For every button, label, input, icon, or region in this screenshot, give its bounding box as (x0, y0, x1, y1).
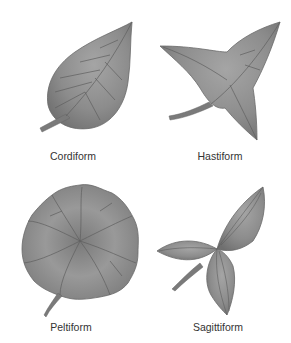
sagittiform-leaf-blade-lower (207, 249, 235, 315)
peltiform-petiole (44, 293, 62, 317)
cordiform-leaf-illustration (0, 0, 145, 171)
hastiform-petiole (169, 102, 213, 120)
sagittiform-leaf-illustration (145, 171, 291, 343)
peltiform-leaf-illustration (0, 171, 145, 343)
leaf-panel-peltiform: Peltiform (0, 171, 145, 342)
peltiform-leaf-blade (22, 185, 138, 300)
sagittiform-leaf-blade-upper (217, 187, 265, 251)
sagittiform-petiole (172, 263, 203, 291)
cordiform-label: Cordiform (23, 150, 123, 162)
cordiform-leaf-blade (47, 22, 132, 129)
hastiform-label: Hastiform (170, 150, 270, 162)
leaf-panel-sagittiform: Sagittiform (145, 171, 290, 342)
sagittiform-leaf-blade-left (157, 241, 217, 260)
peltiform-label: Peltiform (21, 321, 121, 333)
leaf-panel-cordiform: Cordiform (0, 0, 145, 171)
hastiform-leaf-illustration (145, 0, 291, 171)
sagittiform-label: Sagittiform (168, 321, 268, 333)
hastiform-leaf-blade (160, 22, 280, 140)
leaf-panel-hastiform: Hastiform (145, 0, 290, 171)
